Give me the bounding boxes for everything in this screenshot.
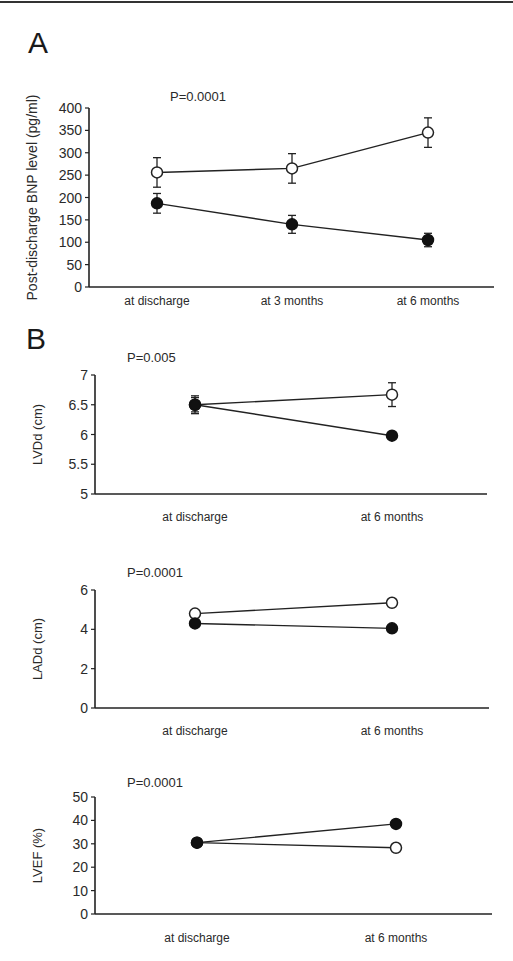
y-tick-label: 30 bbox=[72, 836, 88, 852]
series-line-open bbox=[195, 395, 392, 405]
data-marker-open bbox=[152, 167, 163, 178]
data-marker-filled bbox=[287, 219, 298, 230]
y-tick-label: 6 bbox=[80, 582, 88, 598]
y-tick-label: 0 bbox=[74, 279, 82, 295]
y-tick-label: 150 bbox=[59, 212, 83, 228]
y-axis-label: LVEF (%) bbox=[30, 828, 45, 883]
series-line-filled bbox=[197, 824, 396, 843]
data-marker-filled bbox=[387, 430, 398, 441]
series-line-filled bbox=[195, 623, 392, 628]
y-tick-label: 40 bbox=[72, 812, 88, 828]
x-category-label: at 6 months bbox=[361, 510, 424, 524]
chart-lvdd: 55.566.57LVDd (cm)P=0.005at dischargeat … bbox=[30, 350, 487, 524]
y-tick-label: 20 bbox=[72, 859, 88, 875]
series-line-filled bbox=[195, 405, 392, 436]
data-marker-open bbox=[387, 597, 398, 608]
x-category-label: at discharge bbox=[162, 724, 228, 738]
x-category-label: at discharge bbox=[124, 294, 190, 308]
y-tick-label: 7 bbox=[80, 367, 88, 383]
chart-lvef: 01020304050LVEF (%)P=0.0001at dischargea… bbox=[30, 775, 492, 945]
x-category-label: at 6 months bbox=[361, 724, 424, 738]
data-marker-open bbox=[287, 163, 298, 174]
p-value-label: P=0.0001 bbox=[127, 775, 183, 790]
y-axis-label: Post-discharge BNP level (pg/ml) bbox=[24, 95, 40, 301]
series-line-open bbox=[195, 603, 392, 614]
data-marker-filled bbox=[423, 235, 434, 246]
chart-postdischarge: 050100150200250300350400Post-discharge B… bbox=[24, 89, 494, 308]
p-value-label: P=0.0001 bbox=[170, 89, 226, 104]
y-tick-label: 0 bbox=[80, 700, 88, 716]
x-category-label: at 6 months bbox=[365, 931, 428, 945]
x-category-label: at discharge bbox=[164, 931, 230, 945]
data-marker-filled bbox=[387, 623, 398, 634]
y-axis-label: LVDd (cm) bbox=[30, 404, 45, 465]
x-category-label: at discharge bbox=[162, 510, 228, 524]
y-tick-label: 5.5 bbox=[69, 456, 89, 472]
y-tick-label: 4 bbox=[80, 621, 88, 637]
p-value-label: P=0.005 bbox=[127, 350, 176, 365]
y-tick-label: 50 bbox=[72, 789, 88, 805]
figure-canvas: 050100150200250300350400Post-discharge B… bbox=[0, 0, 513, 961]
y-tick-label: 350 bbox=[59, 122, 83, 138]
y-tick-label: 300 bbox=[59, 145, 83, 161]
y-tick-label: 6.5 bbox=[69, 397, 89, 413]
data-marker-filled bbox=[391, 818, 402, 829]
y-tick-label: 200 bbox=[59, 190, 83, 206]
series-line-open bbox=[197, 843, 396, 848]
data-marker-open bbox=[391, 842, 402, 853]
y-tick-label: 2 bbox=[80, 661, 88, 677]
y-tick-label: 6 bbox=[80, 427, 88, 443]
y-tick-label: 50 bbox=[66, 257, 82, 273]
x-category-label: at 6 months bbox=[397, 294, 460, 308]
data-marker-filled bbox=[190, 399, 201, 410]
x-category-label: at 3 months bbox=[261, 294, 324, 308]
data-marker-open bbox=[423, 127, 434, 138]
data-marker-filled bbox=[192, 837, 203, 848]
y-tick-label: 250 bbox=[59, 167, 83, 183]
chart-ladd: 0246LADd (cm)P=0.0001at dischargeat 6 mo… bbox=[30, 565, 489, 738]
y-tick-label: 10 bbox=[72, 883, 88, 899]
data-marker-filled bbox=[152, 198, 163, 209]
p-value-label: P=0.0001 bbox=[127, 565, 183, 580]
y-axis-label: LADd (cm) bbox=[30, 618, 45, 680]
y-tick-label: 0 bbox=[80, 906, 88, 922]
data-marker-open bbox=[387, 389, 398, 400]
y-tick-label: 5 bbox=[80, 486, 88, 502]
y-tick-label: 400 bbox=[59, 100, 83, 116]
y-tick-label: 100 bbox=[59, 234, 83, 250]
data-marker-filled bbox=[190, 618, 201, 629]
